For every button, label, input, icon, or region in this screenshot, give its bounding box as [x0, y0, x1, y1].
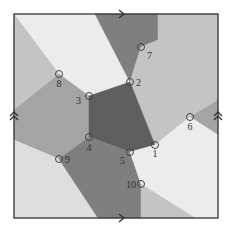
node-label: 5 — [120, 155, 125, 166]
node-label: 9 — [65, 154, 70, 165]
node-label: 3 — [76, 95, 81, 106]
node-label: 7 — [147, 50, 152, 61]
node-label: 2 — [136, 77, 141, 88]
node-label: 6 — [188, 121, 193, 132]
node-label: 1 — [153, 148, 158, 159]
voronoi-diagram: 12345678910 — [0, 0, 232, 232]
node-label: 10 — [126, 179, 136, 190]
node-label: 4 — [87, 142, 92, 153]
node-label: 8 — [57, 78, 62, 89]
